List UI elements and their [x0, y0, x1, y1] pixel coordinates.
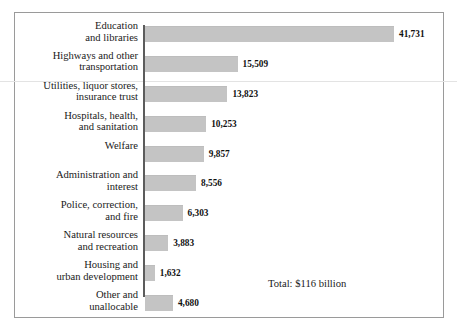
bar-value-label: 4,680 [178, 296, 199, 310]
bar-row: Other and unallocable4,680 [0, 291, 457, 321]
bar [145, 295, 173, 311]
category-label: Hospitals, health, and sanitation [0, 110, 138, 133]
category-label: Other and unallocable [0, 289, 138, 312]
total-annotation: Total: $116 billion [268, 278, 346, 289]
bar-container: 13,823 [145, 86, 227, 102]
bar-container: 10,253 [145, 116, 206, 132]
bar-value-label: 9,857 [209, 147, 230, 161]
bar [145, 26, 394, 42]
category-label: Police, correction, and fire [0, 199, 138, 222]
category-label: Housing and urban development [0, 259, 138, 282]
category-label: Natural resources and recreation [0, 229, 138, 252]
bar [145, 205, 183, 221]
bar-row: Natural resources and recreation3,883 [0, 231, 457, 261]
bar-container: 15,509 [145, 56, 238, 72]
bar-container: 1,632 [145, 265, 155, 281]
bar [145, 175, 196, 191]
bar-value-label: 3,883 [173, 236, 194, 250]
bar-value-label: 8,556 [201, 176, 222, 190]
bar [145, 86, 227, 102]
bar-chart-figure: Education and libraries41,731Highways an… [0, 0, 457, 329]
bar-value-label: 15,509 [243, 57, 269, 71]
bar-row: Highways and other transportation15,509 [0, 52, 457, 82]
category-label: Education and libraries [0, 20, 138, 43]
bar [145, 235, 168, 251]
bar-value-label: 41,731 [399, 27, 425, 41]
bar-container: 9,857 [145, 146, 204, 162]
category-label: Welfare [0, 140, 138, 152]
bar [145, 116, 206, 132]
bar-value-label: 6,303 [188, 206, 209, 220]
bar-rows: Education and libraries41,731Highways an… [0, 22, 457, 321]
category-label: Administration and interest [0, 169, 138, 192]
bar-value-label: 13,823 [232, 87, 258, 101]
bar-container: 6,303 [145, 205, 183, 221]
bar-value-label: 1,632 [160, 266, 181, 280]
bar-row: Education and libraries41,731 [0, 22, 457, 52]
bar-container: 3,883 [145, 235, 168, 251]
bar-row: Utilities, liquor stores, insurance trus… [0, 82, 457, 112]
bar-row: Administration and interest8,556 [0, 171, 457, 201]
bar-container: 4,680 [145, 295, 173, 311]
bar-row: Hospitals, health, and sanitation10,253 [0, 112, 457, 142]
bar-container: 41,731 [145, 26, 394, 42]
bar [145, 56, 238, 72]
bar-container: 8,556 [145, 175, 196, 191]
bar-value-label: 10,253 [211, 117, 237, 131]
bar-row: Housing and urban development1,632 [0, 261, 457, 291]
bar-row: Police, correction, and fire6,303 [0, 201, 457, 231]
category-label: Utilities, liquor stores, insurance trus… [0, 80, 138, 103]
bar [145, 146, 204, 162]
category-label: Highways and other transportation [0, 50, 138, 73]
bar [145, 265, 155, 281]
bar-row: Welfare9,857 [0, 142, 457, 172]
